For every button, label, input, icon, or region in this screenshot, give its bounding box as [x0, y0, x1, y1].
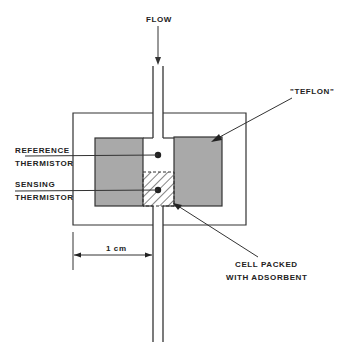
teflon-block-left [95, 138, 143, 206]
teflon-block-right [174, 137, 222, 206]
sensing-label-line2: THERMISTOR [15, 193, 74, 202]
scale-label: 1 cm [106, 244, 127, 253]
sensing-label-line1: SENSING [15, 180, 55, 189]
flow-arrow-icon [155, 26, 161, 65]
flow-cell-diagram: FLOW REFERENCE THERMISTOR SENSING THERMI… [0, 0, 350, 354]
cell-leader-arrow-icon [173, 203, 258, 257]
reference-label-line2: THERMISTOR [15, 159, 74, 168]
teflon-leader-arrow-icon [211, 98, 292, 142]
cell-label-line2: WITH ADSORBENT [226, 273, 307, 282]
cell-label-line1: CELL PACKED [235, 260, 298, 269]
teflon-label: "TEFLON" [290, 87, 334, 96]
flow-label: FLOW [146, 15, 172, 24]
reference-label-line1: REFERENCE [15, 146, 70, 155]
